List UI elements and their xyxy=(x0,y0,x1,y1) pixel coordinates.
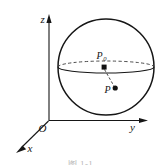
x-axis-label: x xyxy=(27,142,33,154)
sphere-coordinate-figure: P 0 P z y x O xyxy=(0,0,161,165)
p0-label-subscript: 0 xyxy=(103,55,107,62)
figure-container: P 0 P z y x O 图 1-1 xyxy=(0,0,161,165)
p-label: P xyxy=(104,84,111,95)
p0-label: P xyxy=(96,50,103,61)
figure-caption: 图 1-1 xyxy=(0,160,161,165)
p-dot-marker xyxy=(113,85,118,90)
z-axis-label: z xyxy=(40,13,46,25)
y-axis-arrow-icon xyxy=(139,118,148,123)
origin-label: O xyxy=(39,122,47,134)
y-axis-label: y xyxy=(129,121,135,133)
x-axis-arrow-icon xyxy=(16,145,26,153)
p0-square-marker xyxy=(102,65,107,70)
z-axis-arrow-icon xyxy=(46,14,51,23)
z-axis xyxy=(46,14,51,121)
